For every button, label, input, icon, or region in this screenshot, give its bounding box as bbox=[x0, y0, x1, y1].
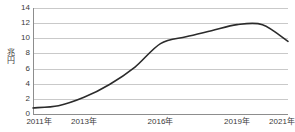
y-tick-label-4: 4 bbox=[13, 80, 30, 88]
x-tick-label-2011: 2011年 bbox=[26, 117, 51, 127]
y-tick-label-10: 10 bbox=[13, 34, 30, 42]
x-tick-label-2019: 2019年 bbox=[224, 117, 250, 127]
y-tick-label-14: 14 bbox=[13, 4, 30, 12]
y-tick-label-12: 12 bbox=[13, 19, 30, 27]
series-plot bbox=[33, 8, 288, 114]
x-axis-tick-labels: 2011年2013年2016年2019年2021年 bbox=[33, 117, 288, 131]
y-tick-label-6: 6 bbox=[13, 65, 30, 73]
plot-area bbox=[33, 8, 288, 114]
series-line-金額 bbox=[33, 23, 288, 108]
y-axis-tick-labels: 02468101214 bbox=[13, 0, 30, 132]
x-tick-label-2013: 2013年 bbox=[71, 117, 97, 127]
gridline-0 bbox=[33, 114, 288, 115]
x-tick-label-2016: 2016年 bbox=[148, 117, 174, 127]
y-tick-label-2: 2 bbox=[13, 95, 30, 103]
x-tick-label-2021: 2021年 bbox=[269, 117, 295, 127]
y-tick-label-8: 8 bbox=[13, 49, 30, 57]
line-chart: 兆円 02468101214 2011年2013年2016年2019年2021年 bbox=[0, 0, 295, 132]
